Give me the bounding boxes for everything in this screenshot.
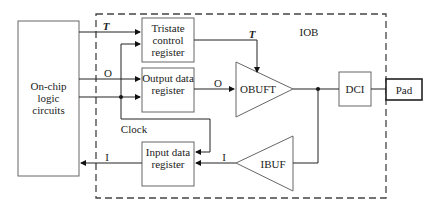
obuft-label: OBUFT xyxy=(238,83,278,95)
dci-label: DCI xyxy=(339,83,371,95)
iob-label: IOB xyxy=(294,26,324,38)
tristate-label: Tristate control register xyxy=(142,22,194,58)
signal-o-in: O xyxy=(102,67,114,79)
pad-label: Pad xyxy=(386,84,422,96)
signal-o-out: O xyxy=(212,77,224,89)
signal-t-in: T xyxy=(100,20,112,32)
ibuf-label: IBUF xyxy=(256,158,290,170)
signal-t-out: T xyxy=(246,28,258,40)
input-register-label: Input data register xyxy=(142,146,194,170)
signal-i-out: I xyxy=(101,151,113,163)
logic-label: On-chip logic circuits xyxy=(20,80,77,116)
signal-clock: Clock xyxy=(118,123,150,135)
output-register-label: Output data register xyxy=(142,72,194,96)
signal-i-in: I xyxy=(218,151,230,163)
